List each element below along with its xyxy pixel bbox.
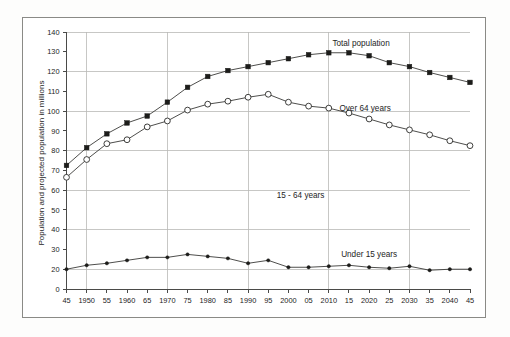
data-point xyxy=(286,56,291,61)
data-point xyxy=(165,100,170,105)
x-tick-label-2015: 15 xyxy=(345,296,353,305)
data-point xyxy=(427,70,432,75)
y-tick-label-30: 30 xyxy=(51,245,59,254)
y-tick-label-20: 20 xyxy=(51,265,59,274)
x-tick-label-2020: 2020 xyxy=(361,296,377,305)
data-point xyxy=(347,264,350,267)
data-point xyxy=(105,132,110,137)
data-point xyxy=(388,267,391,270)
data-point xyxy=(85,264,88,267)
y-tick-label-60: 60 xyxy=(51,186,59,195)
x-tick-label-1975: 75 xyxy=(183,296,191,305)
series-total-population xyxy=(64,50,472,167)
y-tick-label-120: 120 xyxy=(47,67,59,76)
y-tick-label-50: 50 xyxy=(51,206,59,215)
data-point xyxy=(145,114,150,119)
chart-canvas: 02030405060708090100110120130140 4519505… xyxy=(0,0,510,337)
data-point xyxy=(206,255,209,258)
data-point xyxy=(366,116,372,122)
x-tick-label-2025: 25 xyxy=(385,296,393,305)
x-tick-label-1970: 1970 xyxy=(159,296,175,305)
y-tick-label-140: 140 xyxy=(47,28,59,37)
data-point xyxy=(226,257,229,260)
x-tick-label-1955: 55 xyxy=(103,296,111,305)
data-point xyxy=(205,101,211,107)
x-tick-label-1965: 65 xyxy=(143,296,151,305)
data-point xyxy=(245,94,251,100)
x-tick-label-1950: 1950 xyxy=(78,296,94,305)
data-point xyxy=(367,53,372,58)
data-point xyxy=(166,256,169,259)
data-point xyxy=(267,259,270,262)
data-point xyxy=(84,157,90,163)
data-point xyxy=(467,143,473,149)
series-label-total-population: Total population xyxy=(332,39,390,48)
data-point xyxy=(468,80,473,85)
x-tick-label-2005: 05 xyxy=(304,296,312,305)
y-tick-label-90: 90 xyxy=(51,127,59,136)
y-tick-labels-group: 02030405060708090100110120130140 xyxy=(47,28,59,294)
data-point xyxy=(407,64,412,69)
data-point xyxy=(144,124,150,130)
data-point xyxy=(104,141,110,147)
data-point xyxy=(347,50,352,55)
data-point xyxy=(307,266,310,269)
gridlines-group xyxy=(67,32,471,289)
data-point xyxy=(326,105,332,111)
data-point xyxy=(306,52,311,57)
data-point xyxy=(266,60,271,65)
data-point xyxy=(246,262,249,265)
series-label-over-64-years: Over 64 years xyxy=(339,104,390,113)
series-label-under-15-years: Under 15 years xyxy=(341,250,397,259)
data-point xyxy=(408,265,411,268)
data-point xyxy=(84,145,89,150)
data-point xyxy=(65,268,68,271)
y-tick-label-110: 110 xyxy=(48,87,60,96)
data-point xyxy=(427,132,433,138)
x-tick-label-1985: 85 xyxy=(224,296,232,305)
data-point xyxy=(64,174,70,180)
x-tick-label-1945: 45 xyxy=(62,296,70,305)
y-tick-label-130: 130 xyxy=(47,47,59,56)
data-point xyxy=(105,262,108,265)
data-point xyxy=(125,259,128,262)
x-tick-label-1960: 1960 xyxy=(119,296,135,305)
data-point xyxy=(125,121,130,126)
data-point xyxy=(205,74,210,79)
y-tick-label-70: 70 xyxy=(51,166,59,175)
x-tick-label-1995: 95 xyxy=(264,296,272,305)
series-label-15-64-years: 15 - 64 years xyxy=(277,191,325,200)
data-point xyxy=(265,91,271,97)
x-tick-label-1980: 1980 xyxy=(199,296,215,305)
data-point xyxy=(185,85,190,90)
data-series-group xyxy=(64,50,473,271)
data-point xyxy=(124,137,130,143)
x-tick-label-2045: 45 xyxy=(466,296,474,305)
y-tick-label-80: 80 xyxy=(51,146,59,155)
data-point xyxy=(306,103,312,109)
series-over-64-years xyxy=(64,91,473,180)
data-point xyxy=(326,50,331,55)
data-point xyxy=(146,256,149,259)
x-tick-label-2035: 35 xyxy=(426,296,434,305)
data-point xyxy=(185,107,191,113)
data-point xyxy=(64,163,69,168)
population-line-chart: 02030405060708090100110120130140 4519505… xyxy=(0,0,510,337)
data-point xyxy=(164,118,170,124)
x-tick-label-1990: 1990 xyxy=(240,296,256,305)
x-tick-label-2000: 2000 xyxy=(280,296,296,305)
y-axis-title: Population and projected population in m… xyxy=(37,81,46,246)
y-tick-label-0: 0 xyxy=(55,285,59,294)
x-tick-label-2010: 2010 xyxy=(321,296,337,305)
x-tick-label-2040: 2040 xyxy=(442,296,458,305)
data-point xyxy=(367,266,370,269)
data-point xyxy=(286,99,292,105)
data-point xyxy=(287,266,290,269)
data-point xyxy=(226,68,231,73)
data-point xyxy=(246,64,251,69)
page-root: 02030405060708090100110120130140 4519505… xyxy=(0,0,510,337)
data-point xyxy=(386,122,392,128)
x-tick-labels-group: 4519505519606519707519808519909520000520… xyxy=(62,296,474,305)
data-point xyxy=(448,268,451,271)
data-point xyxy=(428,269,431,272)
